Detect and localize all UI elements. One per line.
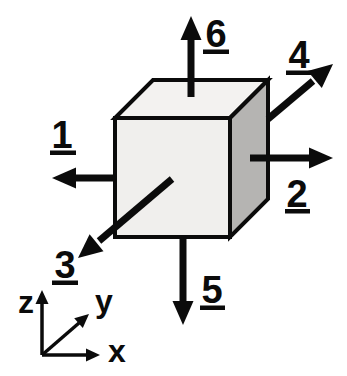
face-label-5: 5 bbox=[201, 269, 222, 311]
face-label-4-underline bbox=[286, 71, 311, 76]
face-label-5-underline bbox=[200, 306, 225, 311]
arrow-5-head bbox=[173, 301, 194, 325]
face-label-6: 6 bbox=[205, 13, 226, 55]
face-label-3-underline bbox=[52, 281, 78, 286]
axes-triad: z y x bbox=[18, 283, 126, 369]
arrow-6-head bbox=[181, 16, 202, 40]
face-arrow-1 bbox=[52, 168, 115, 189]
y-axis-shaft bbox=[42, 323, 79, 355]
arrow-4-shaft bbox=[268, 81, 313, 119]
face-label-6-underline bbox=[203, 50, 229, 55]
x-axis-arrowhead-icon bbox=[86, 349, 100, 362]
face-label-4: 4 bbox=[288, 34, 309, 76]
x-axis-label: x bbox=[108, 333, 126, 369]
face-label-1-underline bbox=[50, 151, 76, 156]
y-axis-label: y bbox=[95, 283, 113, 319]
face-arrow-5 bbox=[173, 238, 194, 325]
cube bbox=[115, 80, 268, 237]
cube-face-numbering-figure: 1 2 3 4 5 6 z y x bbox=[0, 0, 347, 376]
z-axis-label: z bbox=[18, 284, 34, 320]
cube-front-face bbox=[115, 118, 230, 237]
face-label-2: 2 bbox=[286, 173, 307, 215]
face-label-3: 3 bbox=[54, 244, 75, 286]
face-label-1: 1 bbox=[51, 114, 72, 156]
z-axis-arrowhead-icon bbox=[36, 290, 49, 304]
arrow-2-head bbox=[309, 148, 333, 169]
figure-svg: 1 2 3 4 5 6 z y x bbox=[0, 0, 347, 376]
arrow-1-head bbox=[52, 168, 76, 189]
face-label-2-underline bbox=[285, 209, 310, 214]
